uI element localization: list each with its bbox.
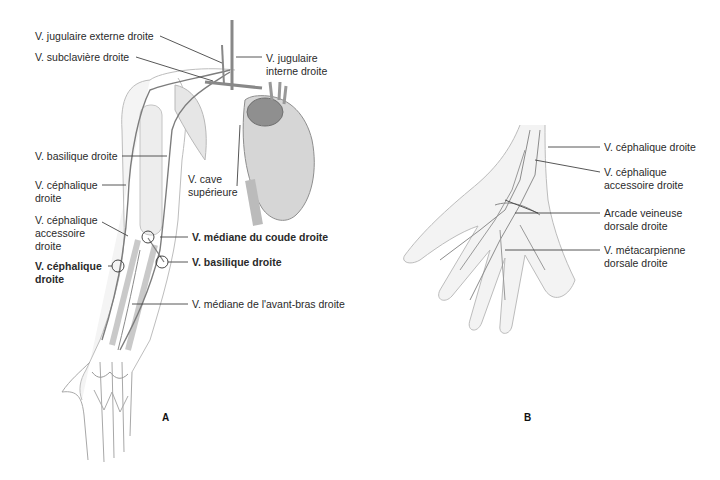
label-v-jugulaire-interne-droite-line2: interne droite — [266, 65, 327, 78]
anatomy-illustration — [0, 0, 720, 480]
label-v-cave-superieure-line1: V. cave — [188, 173, 222, 186]
label-v-basilique-droite: V. basilique droite — [35, 150, 118, 163]
label-b-v-cephalique-droite: V. céphalique droite — [604, 141, 696, 154]
label-b-v-metacarpienne-line1: V. métacarpienne — [604, 244, 685, 257]
label-b-arcade-veineuse-line1: Arcade veineuse — [604, 207, 682, 220]
label-v-mediane-avant-bras-droite: V. médiane de l'avant-bras droite — [192, 298, 345, 311]
label-v-jugulaire-interne-droite-line1: V. jugulaire — [266, 52, 318, 65]
label-v-cephalique-droite-bold-line1: V. céphalique — [35, 260, 102, 273]
panel-letter-b: B — [524, 412, 531, 423]
label-v-cephalique-droite-line2: droite — [35, 192, 61, 205]
hand-b-illustration — [404, 125, 575, 333]
label-v-subclaviere-droite: V. subclavière droite — [35, 51, 129, 64]
label-v-cephalique-accessoire-line1: V. céphalique — [35, 214, 98, 227]
arm-illustration — [80, 20, 262, 400]
label-v-jugulaire-externe-droite: V. jugulaire externe droite — [35, 30, 154, 43]
label-v-cephalique-accessoire-line3: droite — [35, 240, 61, 253]
label-v-cephalique-droite-bold-line2: droite — [35, 273, 64, 286]
label-b-v-metacarpienne-line2: dorsale droite — [604, 257, 668, 270]
hand-a-illustration — [62, 362, 132, 462]
heart-illustration — [243, 82, 314, 225]
label-b-v-cephalique-accessoire-line1: V. céphalique — [604, 166, 667, 179]
panel-letter-a: A — [162, 412, 169, 423]
label-v-basilique-droite-bold: V. basilique droite — [192, 256, 281, 269]
label-v-mediane-du-coude-droite: V. médiane du coude droite — [192, 231, 328, 244]
label-b-v-cephalique-accessoire-line2: accessoire droite — [604, 179, 683, 192]
label-b-arcade-veineuse-line2: dorsale droite — [604, 220, 668, 233]
label-v-cephalique-droite-line1: V. céphalique — [35, 179, 98, 192]
label-v-cave-superieure-line2: supérieure — [188, 186, 238, 199]
label-v-cephalique-accessoire-line2: accessoire — [35, 227, 85, 240]
